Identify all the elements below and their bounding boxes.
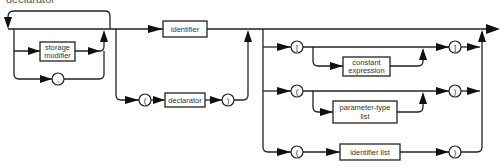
- parameter-type-list-label: parameter-type: [340, 103, 391, 112]
- end-arrow-icon: [486, 24, 500, 34]
- repeat-loop: [8, 11, 110, 29]
- identifier-list-label: identifier list: [350, 148, 391, 157]
- arrow-up-icon: [419, 92, 427, 104]
- identifier-label: identifier: [171, 25, 200, 34]
- close-bracket-symbol: ]: [454, 43, 456, 52]
- arrow-up-icon: [244, 30, 252, 42]
- constant-expression-branch: [313, 47, 343, 66]
- arrow-icon: [277, 87, 291, 95]
- parameter-type-branch: [313, 91, 333, 112]
- line: [390, 50, 423, 66]
- arrow-icon: [210, 96, 222, 104]
- arrow-icon: [436, 87, 449, 95]
- open-paren-params-symbol: (: [296, 87, 299, 96]
- constant-expression-label-2: expression: [348, 66, 384, 75]
- close-paren-idlist-symbol: ): [454, 148, 457, 157]
- arrow-icon: [330, 62, 343, 70]
- loop-arrow-icon: [4, 17, 12, 29]
- arrow-up-icon: [419, 48, 427, 60]
- declarator-label: declarator: [168, 96, 202, 105]
- arrow-icon: [326, 148, 340, 156]
- open-paren-idlist-symbol: (: [296, 148, 299, 157]
- arrow-icon: [148, 25, 163, 33]
- line: [397, 94, 423, 112]
- arrow-icon: [436, 148, 449, 156]
- declarator-syntax-diagram: declarator storage modifier , identifier…: [0, 0, 501, 166]
- parameter-type-list-label-2: list: [360, 112, 370, 121]
- arrow-up-icon: [100, 30, 108, 42]
- diagram-header: declarator: [6, 0, 55, 5]
- open-paren-symbol: (: [144, 96, 147, 105]
- arrow-icon: [40, 75, 52, 83]
- arrow-up-icon: [478, 30, 486, 42]
- arrow-icon: [467, 43, 480, 51]
- arrow-icon: [153, 96, 165, 104]
- arrow-icon: [277, 148, 291, 156]
- storage-modifier-label-2: modifier: [44, 51, 71, 60]
- arrow-icon: [125, 96, 139, 104]
- arrow-icon: [436, 43, 449, 51]
- comma-symbol: ,: [57, 75, 59, 84]
- arrow-icon: [88, 47, 100, 55]
- declarator-exit: [234, 32, 248, 100]
- arrow-icon: [28, 47, 40, 55]
- close-paren-params-symbol: ): [454, 87, 457, 96]
- arrow-icon: [320, 108, 333, 116]
- declarator-branch: [116, 29, 139, 100]
- close-paren-symbol: ): [227, 96, 230, 105]
- arrow-icon: [467, 87, 480, 95]
- storage-branch: [14, 29, 40, 51]
- arrow-icon: [277, 43, 291, 51]
